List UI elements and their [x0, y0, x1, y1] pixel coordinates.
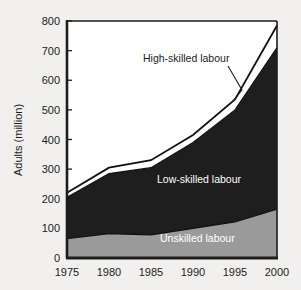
x-tick-label: 1980	[97, 266, 121, 278]
y-tick-label: 500	[42, 104, 60, 116]
y-tick-label: 700	[42, 45, 60, 57]
x-axis-ticks: 197519801985199019952000	[55, 266, 289, 278]
y-tick-label: 800	[42, 15, 60, 27]
y-tick-label: 600	[42, 74, 60, 86]
area-chart: 0100200300400500600700800 19751980198519…	[0, 0, 301, 290]
annotation-high-skilled-labour: High-skilled labour	[143, 52, 230, 64]
x-tick-label: 1995	[223, 266, 247, 278]
annotation-low-skilled-labour: Low-skilled labour	[157, 173, 242, 185]
y-tick-label: 100	[42, 222, 60, 234]
y-axis-title: Adults (million)	[12, 104, 24, 176]
y-tick-label: 0	[54, 252, 60, 264]
x-tick-label: 1975	[55, 266, 79, 278]
y-tick-label: 400	[42, 134, 60, 146]
chart-figure: 0100200300400500600700800 19751980198519…	[0, 0, 301, 290]
y-tick-label: 300	[42, 163, 60, 175]
x-tick-label: 2000	[265, 266, 289, 278]
annotation-unskilled-labour: Unskilled labour	[160, 232, 235, 244]
x-tick-label: 1985	[139, 266, 163, 278]
y-tick-label: 200	[42, 193, 60, 205]
x-tick-label: 1990	[181, 266, 205, 278]
